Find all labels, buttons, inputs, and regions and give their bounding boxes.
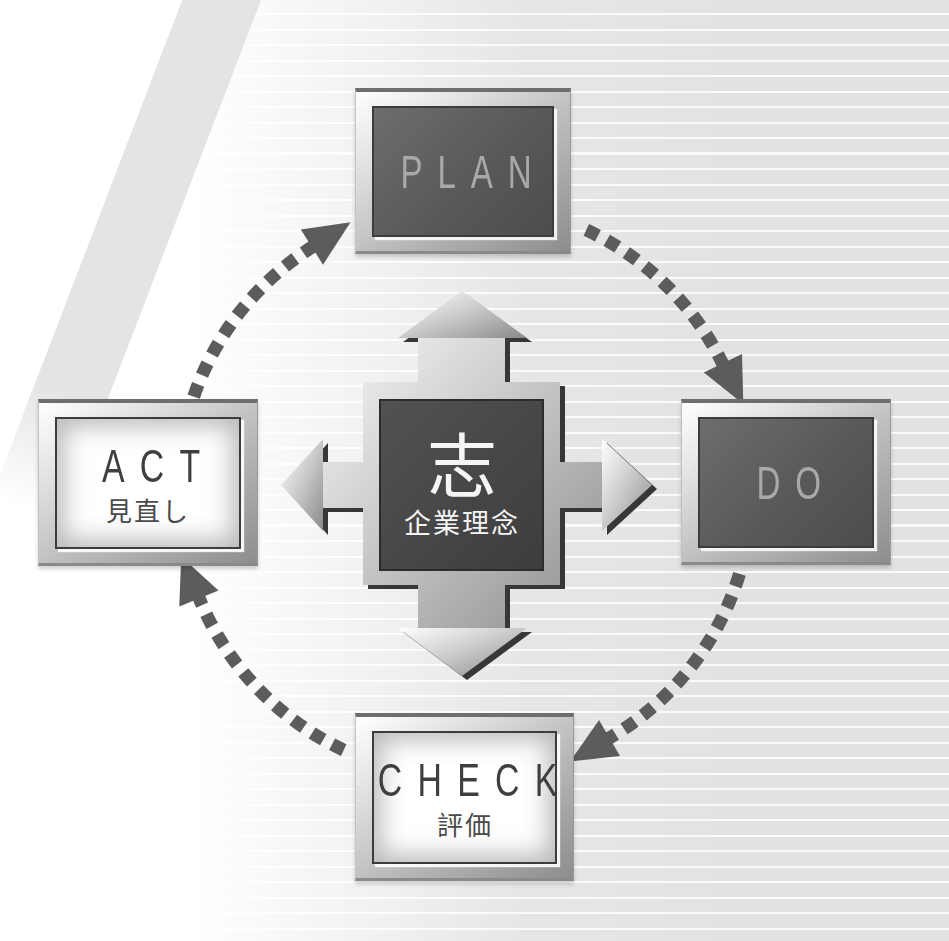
node-check-sublabel: 評価 [437, 813, 493, 839]
node-plan-label: PLAN [400, 149, 546, 195]
node-do-label: DO [757, 460, 836, 506]
node-act: ACT 見直し [38, 399, 258, 566]
center-main-label: 志 [427, 433, 497, 503]
node-plan: PLAN [355, 88, 571, 254]
center-philosophy: 志 企業理念 [380, 400, 543, 570]
center-sub-label: 企業理念 [404, 511, 520, 538]
node-act-sublabel: 見直し [106, 499, 190, 525]
center-arrow-right-icon [602, 439, 652, 531]
center-arrow-down-icon [398, 628, 527, 676]
node-check-label: CHECK [378, 756, 573, 803]
node-act-label: ACT [102, 442, 215, 489]
node-check: CHECK 評価 [355, 713, 574, 881]
center-arrow-left-icon [281, 439, 323, 531]
pdca-diagram: PLAN DO ACT 見直し CHECK 評価 [0, 0, 949, 941]
node-do: DO [681, 399, 891, 565]
center-arrow-up-icon [398, 291, 527, 338]
